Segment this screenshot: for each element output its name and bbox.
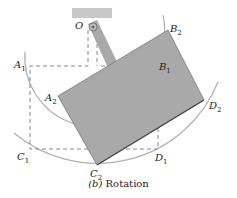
label-c1: C1 (17, 152, 29, 165)
caption-letter: (b) (88, 178, 102, 189)
rotation-drawing (0, 0, 237, 198)
rotation-diagram: O A1 A2 B1 B2 C1 C2 D1 D2 (b) Rotation (0, 0, 237, 198)
label-o: O (75, 21, 83, 31)
label-b1: B1 (159, 62, 171, 75)
label-a1: A1 (14, 60, 26, 73)
label-d2: D2 (209, 101, 222, 114)
fixed-support (72, 8, 112, 18)
label-b2: B2 (170, 24, 182, 37)
label-a2: A2 (45, 93, 57, 106)
figure-caption: (b) Rotation (0, 178, 237, 189)
caption-text: Rotation (106, 178, 149, 189)
pin-center (92, 26, 95, 29)
label-d1: D1 (155, 153, 168, 166)
